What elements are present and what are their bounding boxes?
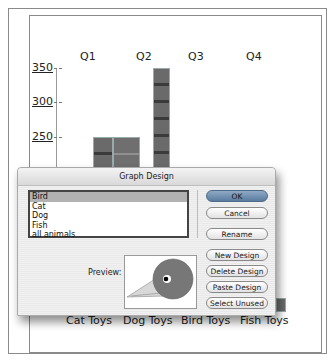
tick-mark [54, 68, 62, 70]
bird-design-icon [125, 256, 196, 308]
paste-design-button[interactable]: Paste Design [206, 281, 268, 293]
graph-bar-dog-q2[interactable] [153, 68, 170, 178]
preview-label: Preview: [88, 268, 121, 277]
new-design-button[interactable]: New Design [206, 249, 268, 261]
design-list[interactable]: Bird Cat Dog Fish all animals [28, 190, 189, 238]
cancel-button[interactable]: Cancel [206, 207, 268, 219]
y-tick-250: 250 [32, 130, 53, 143]
design-preview [124, 255, 197, 309]
dialog-title-bar[interactable]: Graph Design [18, 168, 275, 186]
y-axis [56, 68, 57, 178]
delete-design-button[interactable]: Delete Design [206, 265, 268, 277]
quarter-label-q2: Q2 [136, 50, 152, 63]
list-scrollbar[interactable] [197, 190, 198, 238]
design-list-item-all-animals[interactable]: all animals [30, 230, 187, 240]
design-list-item-fish[interactable]: Fish [30, 221, 187, 231]
tick-mark [54, 137, 62, 139]
rename-button[interactable]: Rename [206, 228, 268, 240]
design-list-item-bird[interactable]: Bird [30, 192, 187, 202]
graph-design-dialog: Graph Design Bird Cat Dog Fish all anima… [17, 167, 276, 316]
y-tick-350: 350 [32, 61, 53, 74]
y-tick-300: 300 [32, 95, 53, 108]
ok-button[interactable]: OK [206, 190, 268, 202]
tick-mark [54, 102, 62, 104]
quarter-label-q3: Q3 [188, 50, 204, 63]
graph-bar-fish-partial[interactable] [276, 298, 286, 312]
quarter-label-q1: Q1 [80, 50, 96, 63]
quarter-label-q4: Q4 [246, 50, 262, 63]
design-list-item-dog[interactable]: Dog [30, 211, 187, 221]
design-list-item-cat[interactable]: Cat [30, 202, 187, 212]
select-unused-button[interactable]: Select Unused [206, 297, 268, 309]
